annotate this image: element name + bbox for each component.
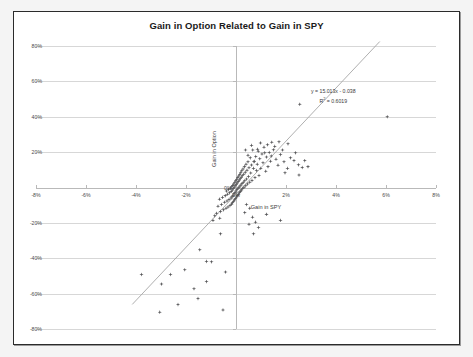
regression-equation: y = 15.013x - 0.038 bbox=[311, 88, 356, 96]
trendline-equation-annotation: y = 15.013x - 0.038 R2 = 0.6019 bbox=[311, 88, 356, 106]
r-squared-value: R2 = 0.6019 bbox=[311, 95, 356, 105]
chart-title: Gain in Option Related to Gain in SPY bbox=[14, 20, 459, 31]
x-tick-label: -6% bbox=[81, 192, 90, 198]
y-tick-label: 80% bbox=[28, 43, 42, 49]
y-tick-label: -20% bbox=[28, 220, 42, 226]
x-tick-label: -8% bbox=[31, 192, 40, 198]
y-tick-label: -40% bbox=[28, 255, 42, 261]
y-tick-label: 60% bbox=[28, 78, 42, 84]
screenshot-root: Gain in Option Related to Gain in SPY -8… bbox=[0, 0, 473, 357]
x-tick-mark bbox=[436, 185, 437, 188]
x-tick-label: 6% bbox=[382, 192, 390, 198]
x-tick-label: -2% bbox=[181, 192, 190, 198]
chart-canvas: Gain in Option Related to Gain in SPY -8… bbox=[14, 12, 459, 344]
chart-image-frame: Gain in Option Related to Gain in SPY -8… bbox=[13, 11, 460, 345]
r-squared-exponent: 2 bbox=[323, 96, 325, 101]
y-axis-title: Gain in Option bbox=[211, 131, 217, 167]
plot-area bbox=[36, 46, 436, 329]
y-tick-label: 20% bbox=[28, 149, 42, 155]
r-squared-number: = 0.6019 bbox=[327, 98, 347, 104]
x-tick-label: 0% bbox=[232, 192, 240, 198]
gridline bbox=[36, 329, 436, 330]
y-tick-label: -60% bbox=[28, 291, 42, 297]
x-tick-label: -4% bbox=[131, 192, 140, 198]
trendline bbox=[36, 46, 436, 329]
x-tick-label: 4% bbox=[332, 192, 340, 198]
y-tick-label: 0% bbox=[224, 185, 232, 191]
y-tick-label: 40% bbox=[28, 114, 42, 120]
x-tick-label: 8% bbox=[432, 192, 440, 198]
y-tick-mark bbox=[233, 329, 236, 330]
x-tick-label: 2% bbox=[282, 192, 290, 198]
y-tick-label: -80% bbox=[28, 326, 42, 332]
x-axis-title: Gain in SPY bbox=[251, 204, 281, 210]
